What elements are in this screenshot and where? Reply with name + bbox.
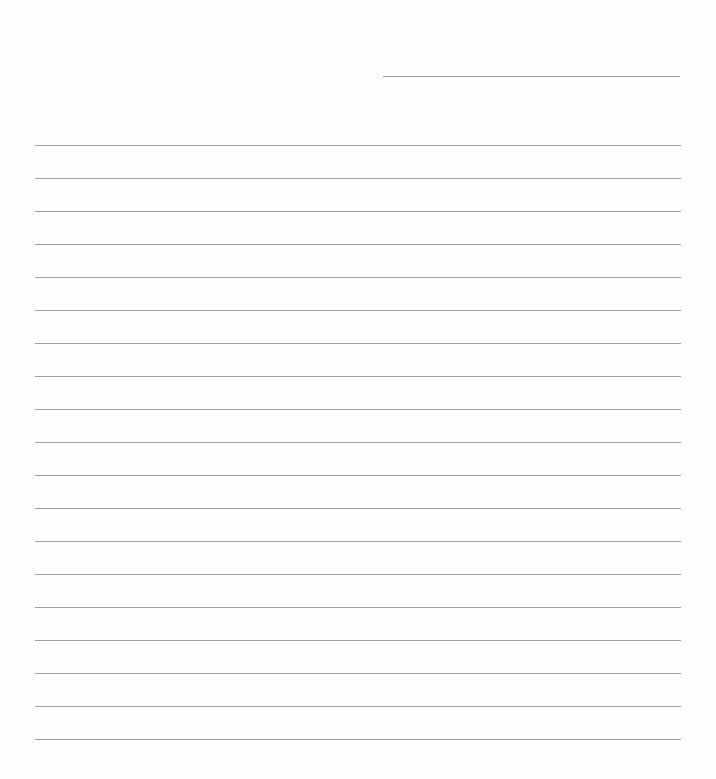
ruled-line[interactable] [35, 475, 681, 476]
ruled-line[interactable] [35, 640, 681, 641]
ruled-line[interactable] [35, 409, 681, 410]
ruled-line[interactable] [35, 739, 681, 740]
ruled-line[interactable] [35, 145, 681, 146]
ruled-line[interactable] [35, 277, 681, 278]
ruled-line[interactable] [35, 508, 681, 509]
ruled-line[interactable] [35, 442, 681, 443]
lined-paper-page [0, 0, 716, 779]
ruled-line[interactable] [35, 574, 681, 575]
ruled-line[interactable] [35, 178, 681, 179]
ruled-line[interactable] [35, 706, 681, 707]
ruled-line[interactable] [35, 541, 681, 542]
ruled-lines [35, 0, 681, 779]
ruled-line[interactable] [35, 607, 681, 608]
ruled-line[interactable] [35, 673, 681, 674]
ruled-line[interactable] [35, 211, 681, 212]
ruled-line[interactable] [35, 376, 681, 377]
ruled-line[interactable] [35, 244, 681, 245]
ruled-line[interactable] [35, 310, 681, 311]
ruled-line[interactable] [35, 343, 681, 344]
